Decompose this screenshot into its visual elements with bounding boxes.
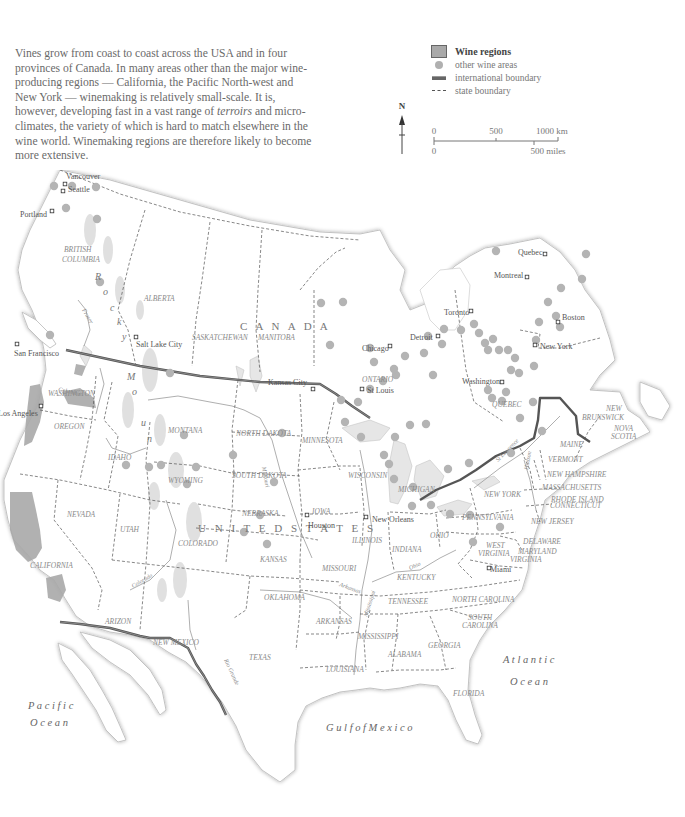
map-legend: Wine regions other wine areas internatio… xyxy=(428,45,541,97)
city-marker-icon xyxy=(533,343,537,347)
wine-area-dot-icon xyxy=(511,354,519,362)
state-label: TENNESSEE xyxy=(388,597,428,606)
city-label: Portland xyxy=(20,210,47,219)
province-label: NEW xyxy=(605,404,623,413)
state-label: MINNESOTA xyxy=(301,436,343,445)
wine-area-dot-icon xyxy=(507,366,515,374)
state-label: NEW JERSEY xyxy=(530,517,575,526)
wine-area-dot-icon xyxy=(406,421,414,429)
state-label: WISCONSIN xyxy=(348,471,388,480)
wine-area-dot-icon xyxy=(385,460,393,468)
state-label: KENTUCKY xyxy=(396,573,436,582)
wine-area-dot-icon xyxy=(326,341,334,349)
city-label: New Orleans xyxy=(372,515,414,524)
wine-area-dot-icon xyxy=(427,501,435,509)
state-label: ARKANSAS xyxy=(315,617,352,626)
wine-area-dot-icon xyxy=(145,463,153,471)
intro-italic-term: terroirs xyxy=(217,105,252,118)
wine-area-dot-icon xyxy=(470,320,478,328)
city-marker-icon xyxy=(556,320,560,324)
city-marker-icon xyxy=(388,344,392,348)
state-label: NEVADA xyxy=(66,510,96,519)
state-label: GEORGIA xyxy=(428,641,461,650)
state-label: OHIO xyxy=(430,531,449,540)
wine-area-dot-icon xyxy=(50,182,58,190)
wine-area-dot-icon xyxy=(489,335,497,343)
province-label: COLUMBIA xyxy=(62,255,100,264)
city-label: St Louis xyxy=(367,386,394,395)
state-label: CONNECTICUT xyxy=(550,501,602,510)
state-label: MASSACHUSETTS xyxy=(541,483,601,492)
city-marker-icon xyxy=(436,334,440,338)
mountain-range-label: M xyxy=(126,371,136,382)
city-marker-icon xyxy=(50,209,54,213)
province-label: BRUNSWICK xyxy=(582,413,625,422)
city-marker-icon xyxy=(311,387,315,391)
city-label: Vancouver xyxy=(66,172,101,181)
mountain-range-label: n xyxy=(147,433,152,444)
wine-area-dot-icon xyxy=(337,396,345,404)
state-label: NORTH DAKOTA xyxy=(235,429,291,438)
city-label: Los Angeles xyxy=(0,409,38,418)
scale-km-500: 500 xyxy=(489,126,503,136)
city-label: San Francisco xyxy=(14,349,59,358)
city-label: Seattle xyxy=(68,185,90,194)
wine-area-dot-icon xyxy=(93,215,101,223)
wine-area-dot-icon xyxy=(390,365,398,373)
wine-area-dot-icon xyxy=(578,275,586,283)
wine-area-dot-icon xyxy=(62,204,70,212)
city-label: Miami xyxy=(490,565,512,574)
wine-area-dot-icon xyxy=(429,371,437,379)
wine-area-dot-icon xyxy=(475,329,483,337)
state-label: IDAHO xyxy=(107,453,132,462)
state-label: MAINE xyxy=(559,440,583,449)
wine-area-dot-icon xyxy=(339,298,347,306)
city-label: Quebec xyxy=(518,248,543,257)
mountain-range-label: o xyxy=(132,386,137,397)
state-label: NEW MEXICO xyxy=(152,638,200,647)
province-label: QUEBEC xyxy=(492,400,523,409)
legend-label: international boundary xyxy=(455,73,541,83)
province-label: MANITOBA xyxy=(257,333,295,342)
province-label: ONTARIO xyxy=(362,375,394,384)
mountain-range-label: u xyxy=(141,417,146,428)
city-marker-icon xyxy=(63,182,67,186)
state-label: MISSOURI xyxy=(321,564,357,573)
state-boundary-icon xyxy=(432,90,446,91)
state-label: COLORADO xyxy=(178,539,219,548)
scale-mi-0: 0 xyxy=(432,146,437,156)
international-boundary-icon xyxy=(432,76,446,80)
wine-area-dot-icon xyxy=(484,386,492,394)
state-label: CALIFORNIA xyxy=(30,561,73,570)
wine-area-dot-icon xyxy=(515,369,523,377)
wine-area-dot-icon xyxy=(341,418,349,426)
state-label: VIRGINIA xyxy=(510,555,542,564)
wine-area-dot-icon xyxy=(492,247,500,255)
scale-mi-500: 500 miles xyxy=(530,146,566,156)
wine-area-dot-icon xyxy=(502,388,510,396)
scale-km-1000: 1000 km xyxy=(536,126,568,136)
city-label: Washington xyxy=(462,377,500,386)
city-label: Detroit xyxy=(410,333,433,342)
wine-area-dot-icon xyxy=(422,420,430,428)
city-label: Montreal xyxy=(494,271,524,280)
legend-label: other wine areas xyxy=(455,60,517,70)
wine-area-dot-icon xyxy=(229,451,237,459)
city-marker-icon xyxy=(500,380,504,384)
state-label: INDIANA xyxy=(391,545,422,554)
city-marker-icon xyxy=(305,513,309,517)
state-label: MICHIGAN xyxy=(397,485,436,494)
wine-dot-icon xyxy=(435,61,443,69)
state-label: UTAH xyxy=(120,525,140,534)
mountain-range-label: y xyxy=(121,331,127,342)
province-label: SASKATCHEWAN xyxy=(192,333,249,342)
state-label: ILLINOIS xyxy=(351,536,382,545)
wine-area-dot-icon xyxy=(357,433,365,441)
mountain-range-label: c xyxy=(110,302,115,313)
city-marker-icon xyxy=(364,515,368,519)
north-label: N xyxy=(399,101,406,111)
wine-area-dot-icon xyxy=(157,461,165,469)
city-marker-icon xyxy=(134,335,138,339)
wine-region-southern-california xyxy=(46,574,66,602)
state-label: OREGON xyxy=(54,422,85,431)
